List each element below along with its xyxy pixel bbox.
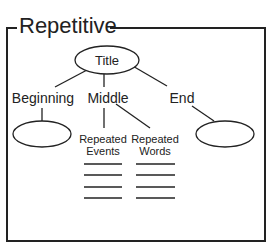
repeated-words-line2: Words bbox=[139, 145, 171, 157]
end-blank-node bbox=[196, 121, 254, 147]
repeated-events-line2: Events bbox=[86, 145, 120, 157]
branch-end: End bbox=[170, 90, 195, 106]
beginning-blank-node bbox=[13, 121, 71, 147]
repeated-events-blank-lines bbox=[84, 164, 122, 198]
repeated-events-line1: Repeated bbox=[79, 133, 127, 145]
branch-middle: Middle bbox=[87, 90, 128, 106]
repeated-words-blank-lines bbox=[136, 164, 175, 198]
repeated-words-line1: Repeated bbox=[131, 133, 179, 145]
branch-beginning: Beginning bbox=[12, 90, 74, 106]
title-node-label: Title bbox=[95, 53, 119, 68]
frame-title: Repetitive bbox=[19, 13, 117, 38]
story-map-diagram: Repetitive Title Beginning Middle End Re… bbox=[0, 0, 270, 244]
